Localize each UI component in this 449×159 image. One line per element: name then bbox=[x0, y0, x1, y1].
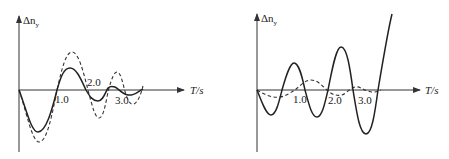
left-chart: Δny T/s 1.0 2.0 3.0 bbox=[19, 14, 203, 152]
left-x-label: T/s bbox=[190, 84, 203, 96]
right-tick-2: 2.0 bbox=[328, 94, 342, 106]
right-x-label: T/s bbox=[425, 84, 438, 96]
right-solid-curve bbox=[257, 14, 392, 134]
left-tick-2: 2.0 bbox=[87, 76, 101, 88]
left-y-label: Δny bbox=[23, 14, 40, 29]
left-tick-3: 3.0 bbox=[115, 94, 129, 106]
right-y-label: Δny bbox=[261, 12, 278, 27]
left-tick-1: 1.0 bbox=[55, 93, 69, 105]
right-tick-1: 1.0 bbox=[293, 93, 307, 105]
diagram-canvas: Δny T/s 1.0 2.0 3.0 Δny T/s 1.0 2.0 3.0 bbox=[0, 0, 449, 159]
right-tick-3: 3.0 bbox=[358, 94, 372, 106]
right-chart: Δny T/s 1.0 2.0 3.0 bbox=[257, 12, 438, 152]
